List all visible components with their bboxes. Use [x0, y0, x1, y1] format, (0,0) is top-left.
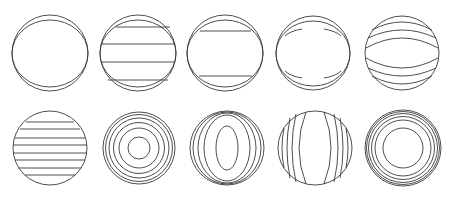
fringe-pattern-figure — [0, 0, 452, 198]
panel-t2-four-horizontal-lines — [100, 15, 176, 91]
panel-t1-two-offset-circles — [12, 15, 88, 91]
panel-b2-concentric-rings — [103, 112, 175, 184]
panel-b1-straight-fringes — [13, 111, 87, 185]
panel-b3-elliptical-rings — [190, 111, 264, 185]
panel-t4-corner-lenses — [276, 16, 350, 90]
panel-b5-dense-edge-rings — [365, 110, 441, 186]
panel-t3-two-horizontal-lines — [187, 15, 263, 91]
panel-b4-curved-vertical-fringes — [278, 111, 352, 185]
panel-t5-wavy-bands — [365, 16, 439, 90]
